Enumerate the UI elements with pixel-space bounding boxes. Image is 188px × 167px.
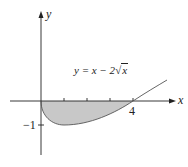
equation-prefix: y = x − 2	[74, 64, 115, 76]
y-axis-label: y	[46, 7, 51, 22]
y-axis-arrow-icon	[39, 11, 44, 18]
shaded-region	[41, 101, 133, 125]
tick-label-4: 4	[129, 104, 135, 119]
x-axis-label: x	[178, 93, 183, 108]
graph	[0, 0, 188, 167]
tick-label-neg1: −1	[23, 118, 36, 133]
equation-label: y = x − 2√x	[74, 64, 128, 76]
x-axis-arrow-icon	[169, 99, 176, 104]
equation-radicand: x	[121, 63, 128, 76]
